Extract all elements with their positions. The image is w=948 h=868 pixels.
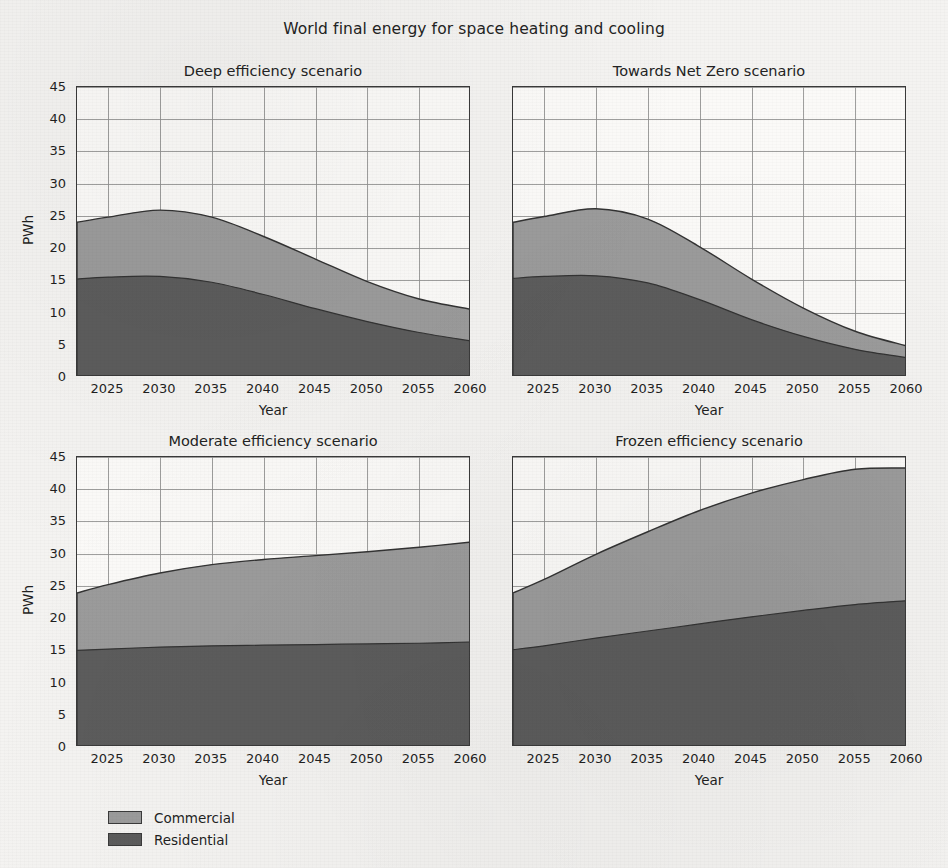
y-tick-label: 20 <box>36 610 66 625</box>
x-tick-label: 2035 <box>194 381 227 396</box>
x-tick-label: 2045 <box>298 381 331 396</box>
x-tick-label: 2060 <box>889 751 922 766</box>
plot-area <box>76 456 470 746</box>
y-tick-label: 10 <box>36 304 66 319</box>
figure-title: World final energy for space heating and… <box>0 20 948 38</box>
y-tick-label: 20 <box>36 240 66 255</box>
x-tick-label: 2035 <box>194 751 227 766</box>
panel-title: Deep efficiency scenario <box>76 63 470 79</box>
y-axis-label: PWh <box>20 403 36 797</box>
x-tick-label: 2050 <box>786 751 819 766</box>
x-tick-label: 2035 <box>630 751 663 766</box>
y-tick-label: 0 <box>36 369 66 384</box>
legend-label: Commercial <box>154 810 235 826</box>
area-residential <box>77 642 470 746</box>
legend-label: Residential <box>154 832 228 848</box>
x-tick-label: 2025 <box>91 751 124 766</box>
x-tick-label: 2060 <box>453 751 486 766</box>
y-tick-label: 45 <box>36 449 66 464</box>
x-tick-label: 2030 <box>578 381 611 396</box>
x-axis-label: Year <box>76 402 470 418</box>
x-tick-label: 2045 <box>734 381 767 396</box>
stacked-area-series <box>77 87 470 376</box>
x-tick-label: 2040 <box>682 751 715 766</box>
panel-title: Moderate efficiency scenario <box>76 433 470 449</box>
y-tick-label: 30 <box>36 175 66 190</box>
plot-area <box>76 86 470 376</box>
y-tick-label: 15 <box>36 642 66 657</box>
x-tick-label: 2055 <box>402 381 435 396</box>
y-tick-label: 35 <box>36 143 66 158</box>
y-tick-label: 15 <box>36 272 66 287</box>
x-tick-label: 2025 <box>527 381 560 396</box>
x-tick-label: 2055 <box>838 751 871 766</box>
x-tick-label: 2040 <box>246 751 279 766</box>
x-axis-label: Year <box>512 402 906 418</box>
x-tick-label: 2040 <box>246 381 279 396</box>
legend-item: Residential <box>108 830 235 849</box>
x-tick-label: 2030 <box>142 381 175 396</box>
x-tick-label: 2035 <box>630 381 663 396</box>
x-tick-label: 2060 <box>889 381 922 396</box>
x-tick-label: 2045 <box>734 751 767 766</box>
y-tick-label: 5 <box>36 336 66 351</box>
y-tick-label: 45 <box>36 79 66 94</box>
panel-title: Towards Net Zero scenario <box>512 63 906 79</box>
x-tick-label: 2060 <box>453 381 486 396</box>
plot-area <box>512 86 906 376</box>
x-tick-label: 2055 <box>838 381 871 396</box>
y-tick-label: 25 <box>36 207 66 222</box>
figure-canvas: World final energy for space heating and… <box>0 0 948 868</box>
panel-frozen-efficiency-scenario: Frozen efficiency scenario 2025203020352… <box>512 456 906 746</box>
x-tick-label: 2025 <box>527 751 560 766</box>
panel-title: Frozen efficiency scenario <box>512 433 906 449</box>
x-axis-label: Year <box>76 772 470 788</box>
x-tick-label: 2025 <box>91 381 124 396</box>
x-tick-label: 2050 <box>350 751 383 766</box>
y-tick-label: 30 <box>36 545 66 560</box>
plot-area <box>512 456 906 746</box>
x-tick-label: 2040 <box>682 381 715 396</box>
panel-moderate-efficiency-scenario: Moderate efficiency scenario 05101520253… <box>76 456 470 746</box>
y-tick-label: 5 <box>36 706 66 721</box>
x-tick-label: 2030 <box>142 751 175 766</box>
y-tick-label: 35 <box>36 513 66 528</box>
legend-swatch-commercial <box>108 811 142 824</box>
y-tick-label: 25 <box>36 577 66 592</box>
y-tick-label: 0 <box>36 739 66 754</box>
y-tick-label: 40 <box>36 111 66 126</box>
legend: Commercial Residential <box>108 808 235 852</box>
legend-swatch-residential <box>108 833 142 846</box>
y-axis-label: PWh <box>20 33 36 427</box>
y-tick-label: 10 <box>36 674 66 689</box>
legend-item: Commercial <box>108 808 235 827</box>
stacked-area-series <box>513 457 906 746</box>
x-tick-label: 2030 <box>578 751 611 766</box>
panel-towards-net-zero-scenario: Towards Net Zero scenario 20252030203520… <box>512 86 906 376</box>
stacked-area-series <box>513 87 906 376</box>
panel-deep-efficiency-scenario: Deep efficiency scenario 051015202530354… <box>76 86 470 376</box>
x-axis-label: Year <box>512 772 906 788</box>
x-tick-label: 2050 <box>786 381 819 396</box>
stacked-area-series <box>77 457 470 746</box>
x-tick-label: 2050 <box>350 381 383 396</box>
x-tick-label: 2045 <box>298 751 331 766</box>
y-tick-label: 40 <box>36 481 66 496</box>
x-tick-label: 2055 <box>402 751 435 766</box>
